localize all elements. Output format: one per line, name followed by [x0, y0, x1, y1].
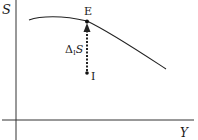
y-axis-label: S: [2, 2, 11, 17]
diagram-canvas: S Y E I ΔIS: [0, 0, 198, 140]
point-i: [85, 71, 89, 75]
point-e-label: E: [84, 5, 92, 18]
curve: [29, 17, 166, 69]
delta-variable: S: [76, 43, 84, 56]
delta-symbol: Δ: [65, 43, 73, 56]
delta-label: ΔIS: [65, 43, 84, 57]
x-axis-label: Y: [180, 126, 189, 140]
point-i-label: I: [91, 70, 95, 83]
point-e: [85, 20, 89, 24]
arrowhead-icon: [84, 23, 91, 32]
